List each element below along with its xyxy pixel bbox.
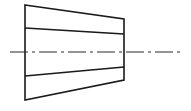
- frustum-drawing: [0, 0, 191, 111]
- diagram-canvas: [0, 0, 191, 111]
- upper-inner-line: [25, 28, 124, 34]
- lower-inner-line: [25, 67, 124, 76]
